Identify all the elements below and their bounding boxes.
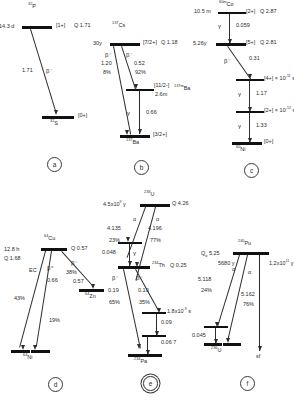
b-parent-nuclide: 137Cs (112, 23, 125, 29)
f-alpha2-energy: 5.162 (241, 292, 255, 298)
d-ni-nuclide: 64Ni (23, 355, 32, 361)
decay-scheme-figure: 32P 14.3 d [1+] Q 1.71 1.71 β⁻ [0+] 32S … (0, 0, 294, 401)
panel-f: 240Pu Qα 5.25 5680 y 1.2x1011 y α 5.118 … (196, 190, 294, 401)
c-ground-q: Q 2.81 (260, 40, 277, 46)
b-gamma-symbol: γ (127, 110, 130, 116)
b-parent-spin-parity: [7/2+] (143, 40, 157, 46)
c-gamma2-symbol: γ (238, 91, 241, 97)
d-betaminus-symbol: β⁻ (71, 260, 78, 266)
c-gamma1-symbol: γ (218, 23, 221, 29)
a-beta-symbol: β⁻ (46, 68, 53, 74)
d-ni-level-right (31, 350, 50, 353)
b-beta2-intensity: 92% (135, 70, 146, 76)
b-metastable-halflife: 2.6m (155, 92, 167, 98)
e-level-upper-lifetime: 1.8x10-9 s (167, 309, 191, 315)
e-alpha2-symbol: α (156, 217, 159, 223)
c-level-4plus-spin-parity: [4+] × 10-11 s (264, 76, 294, 82)
f-halflife-fission: 1.2x1011 y (269, 261, 294, 267)
c-gamma1-energy: 0.059 (236, 23, 250, 29)
d-halflife-label: 12.8 h (4, 247, 19, 253)
f-gamma-energy: 0.045 (192, 333, 206, 339)
c-ground-level (216, 43, 246, 46)
a-daughter-spin-parity: [0+] (78, 113, 87, 119)
f-uranium-nuclide: 236U (211, 348, 221, 354)
d-betaplus-intensity: 19% (49, 318, 60, 324)
panel-d-letter: d (48, 377, 63, 392)
f-fission-line (259, 255, 260, 351)
a-parent-level (22, 26, 52, 29)
e-thorium-nuclide: 234Th (152, 263, 165, 269)
a-daughter-nuclide: 32S (50, 121, 58, 127)
a-daughter-level (42, 116, 74, 119)
c-gamma2-energy: 1.17 (256, 91, 267, 97)
panel-f-letter: f (240, 376, 255, 391)
b-beta1-energy: 1.20 (101, 61, 112, 67)
c-gamma3-symbol: γ (238, 123, 241, 129)
e-alpha2-energy: 4.196 (148, 226, 162, 232)
c-gamma3-energy: 1.33 (256, 123, 267, 129)
f-fission-symbol: sf (256, 354, 260, 360)
d-q-left: Q 1.68 (4, 256, 21, 262)
f-fission-arrowhead (258, 346, 262, 351)
b-metastable-level (126, 89, 154, 91)
c-level-2plus-spin-parity: [2+] × 10-12 s (264, 108, 294, 114)
b-daughter-level (120, 135, 150, 138)
c-daughter-nuclide: 60Ni (236, 147, 245, 153)
panel-e-letter: e (143, 376, 158, 391)
e-level-upper (142, 312, 166, 314)
e-alpha2-intensity: 77% (150, 238, 161, 244)
c-level-4plus (236, 79, 264, 81)
c-ground-halflife: 5.26y (193, 41, 206, 47)
a-beta-arrowhead (54, 110, 58, 115)
f-excited-level (204, 326, 228, 328)
b-halflife-label: 30y (93, 41, 102, 47)
c-metastable-halflife: 10.5 m (194, 9, 211, 15)
a-parent-nuclide: 32P (28, 4, 36, 10)
e-parent-nuclide: 238U (144, 192, 154, 198)
a-q-value: Q 1.71 (74, 23, 91, 29)
c-beta-energy: 0.31 (249, 56, 260, 62)
e-gamma2-energy: 0.09 (161, 320, 172, 326)
b-metastable-spin-parity: [11/2-] (154, 83, 169, 89)
c-ground-spin-parity: [5+] (246, 40, 255, 46)
d-parent-nuclide: 64Cu (44, 236, 55, 242)
panel-a: 32P 14.3 d [1+] Q 1.71 1.71 β⁻ [0+] 32S … (0, 0, 96, 185)
e-gamma1-symbol: γ (133, 250, 136, 256)
f-alpha2-intensity: 76% (243, 302, 254, 308)
c-metastable-q: Q 2.87 (260, 9, 277, 15)
e-beta1-intensity: 65% (109, 300, 120, 306)
b-gamma-line (139, 91, 140, 134)
panel-c: 60mCo 10.5 m [2+] Q 2.87 γ 0.059 5.26y [… (196, 0, 294, 185)
f-q-alpha: Qα 5.25 (201, 251, 220, 257)
d-ec-intensity: 43% (14, 296, 25, 302)
e-level-lower (142, 335, 166, 337)
d-betaplus-symbol: β⁺ (47, 265, 54, 271)
e-beta1-energy: 0.19 (108, 288, 119, 294)
e-protactinium-nuclide: 234Pa (134, 359, 147, 365)
c-metastable-level (218, 12, 246, 14)
e-beta2-intensity: 35% (139, 300, 150, 306)
f-alpha1-symbol: α (232, 267, 235, 273)
b-gamma-arrowhead (138, 129, 142, 134)
e-alpha1-energy: 4.135 (107, 226, 121, 232)
panel-e: 238U 4.5x109 y Q 4.26 α 4.135 23% α 4.19… (100, 190, 200, 401)
c-metastable-spin-parity: [2+] (246, 9, 255, 15)
e-alpha1-symbol: α (133, 217, 136, 223)
f-alpha1-intensity: 24% (201, 288, 212, 294)
e-gamma1-energy: 0.048 (102, 250, 116, 256)
a-halflife-label: 14.3 d (0, 24, 14, 30)
c-level-2plus (236, 111, 264, 113)
e-thorium-q: Q 0.25 (170, 263, 187, 269)
b-daughter-spin-parity: [3/2+] (153, 132, 167, 138)
panel-b: 137Cs 30y [7/2+] Q 1.18 β⁻ 1.20 8% β⁻ 0.… (96, 0, 196, 185)
e-q-value: Q 4.26 (172, 201, 189, 207)
panel-a-letter: a (47, 157, 62, 172)
b-beta2-symbol: β⁻ (126, 52, 133, 58)
b-beta1-intensity: 8% (103, 70, 111, 76)
b-beta1-symbol: β⁻ (105, 52, 112, 58)
f-parent-nuclide: 240Pu (238, 241, 251, 247)
d-ec-symbol: EC (29, 268, 37, 274)
f-uranium-level-right (223, 343, 241, 346)
f-alpha2-symbol: α (248, 270, 251, 276)
b-q-value: Q 1.18 (161, 40, 178, 46)
